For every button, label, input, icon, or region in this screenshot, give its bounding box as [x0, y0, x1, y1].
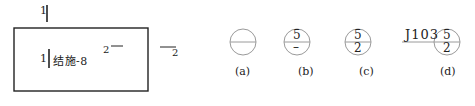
symbol-c-top: 5 — [354, 28, 362, 42]
box-label-prefix: 1 — [40, 52, 47, 65]
outer-number: 2 — [172, 47, 178, 58]
caption-a: (a) — [235, 65, 250, 78]
top-marker-number: 1 — [40, 4, 47, 17]
caption-c: (c) — [359, 65, 374, 78]
symbol-c-bottom: 2 — [354, 41, 362, 55]
caption-b: (b) — [298, 65, 314, 78]
caption-d: (d) — [440, 65, 456, 78]
section-marker-panel — [14, 5, 176, 91]
box-label: 结施-8 — [53, 52, 88, 68]
symbol-d-prefix: J103 — [405, 27, 439, 42]
symbol-a — [230, 29, 256, 55]
inner-number: 2 — [103, 44, 109, 55]
symbol-b-bottom: – — [293, 40, 299, 54]
symbol-d-top: 5 — [443, 28, 451, 42]
symbol-d-bottom: 2 — [443, 41, 451, 55]
